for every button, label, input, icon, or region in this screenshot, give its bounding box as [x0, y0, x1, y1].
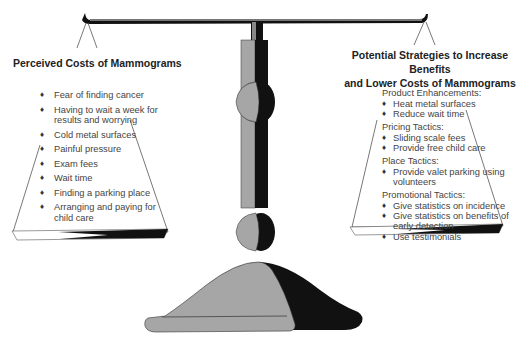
right-pan-title: Potential Strategies to Increase Benefit…: [340, 48, 516, 90]
list-item: ♦Provide free child care: [382, 143, 512, 153]
group-heading: Place Tactics:: [382, 156, 512, 167]
strategies-list: Product Enhancements: ♦Heat metal surfac…: [382, 85, 512, 242]
list-item: ♦Provide valet parking using volunteers: [382, 167, 512, 188]
diamond-bullet-icon: ♦: [40, 90, 44, 101]
diamond-bullet-icon: ♦: [382, 133, 386, 143]
diamond-bullet-icon: ♦: [382, 167, 386, 177]
group-heading: Product Enhancements:: [382, 88, 512, 99]
list-item: ♦Heat metal surfaces: [382, 99, 512, 109]
diamond-bullet-icon: ♦: [40, 173, 44, 184]
column-gray: [241, 40, 255, 208]
diamond-bullet-icon: ♦: [40, 144, 44, 155]
list-item: ♦Arranging and paying for child care: [39, 202, 159, 223]
list-item: ♦Finding a parking place: [39, 188, 159, 199]
list-item: ♦Exam fees: [39, 159, 159, 170]
diamond-bullet-icon: ♦: [40, 188, 44, 199]
diamond-bullet-icon: ♦: [40, 159, 44, 170]
group-heading: Pricing Tactics:: [382, 122, 512, 133]
diamond-bullet-icon: ♦: [382, 143, 386, 153]
diamond-bullet-icon: ♦: [382, 232, 386, 242]
diamond-bullet-icon: ♦: [382, 99, 386, 109]
list-item: ♦Give statistics on incidence: [382, 201, 512, 211]
diamond-bullet-icon: ♦: [382, 211, 386, 221]
group-pricing-tactics: Pricing Tactics: ♦Sliding scale fees ♦Pr…: [382, 122, 512, 153]
list-item: ♦Give statistics on benefits of early de…: [382, 211, 512, 232]
list-item: ♦Painful pressure: [39, 144, 159, 155]
diamond-bullet-icon: ♦: [40, 130, 44, 141]
left-pan-title: Perceived Costs of Mammograms: [13, 56, 182, 70]
list-item: ♦Wait time: [39, 173, 159, 184]
list-item: ♦Having to wait a week for results and w…: [39, 105, 159, 126]
list-item: ♦Cold metal surfaces: [39, 130, 159, 141]
perceived-costs-list: ♦Fear of finding cancer ♦Having to wait …: [39, 90, 159, 227]
list-item: ♦Sliding scale fees: [382, 133, 512, 143]
group-heading: Promotional Tactics:: [382, 190, 512, 201]
base-gray: [145, 262, 295, 332]
list-item: ♦Reduce wait time: [382, 109, 512, 119]
list-item: ♦Fear of finding cancer: [39, 90, 159, 101]
list-item: ♦Use testimonials: [382, 232, 512, 242]
diamond-bullet-icon: ♦: [40, 202, 44, 213]
diamond-bullet-icon: ♦: [382, 201, 386, 211]
diamond-bullet-icon: ♦: [382, 109, 386, 119]
group-place-tactics: Place Tactics: ♦Provide valet parking us…: [382, 156, 512, 187]
group-product-enhancements: Product Enhancements: ♦Heat metal surfac…: [382, 88, 512, 119]
diamond-bullet-icon: ♦: [40, 105, 44, 116]
column-dark: [255, 40, 268, 208]
group-promotional-tactics: Promotional Tactics: ♦Give statistics on…: [382, 190, 512, 242]
